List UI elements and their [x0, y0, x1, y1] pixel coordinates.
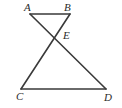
- segment-bc: [21, 14, 70, 89]
- vertex-label-a: A: [24, 2, 31, 13]
- segment-ad: [30, 14, 106, 89]
- vertex-label-e: E: [63, 30, 70, 41]
- vertex-label-d: D: [104, 92, 112, 103]
- vertex-label-b: B: [64, 2, 71, 13]
- geometry-figure: A B E C D: [0, 0, 122, 108]
- vertex-label-c: C: [16, 91, 23, 102]
